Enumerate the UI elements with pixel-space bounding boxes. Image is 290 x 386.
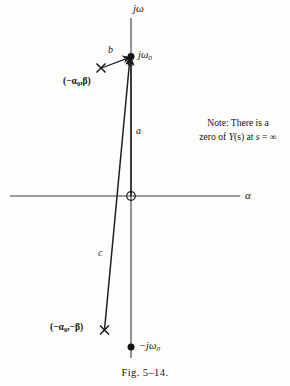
vector-a-label: a — [136, 125, 141, 136]
pole-upper-coord-label: (−α0,β) — [63, 76, 91, 87]
figure-caption: Fig. 5–14. — [0, 367, 290, 378]
zero-lower-label-text: −jω — [139, 340, 156, 351]
pole-upper-coord-head: (−α — [63, 76, 77, 86]
note-line-1: Note: There is a — [188, 116, 288, 130]
zero-upper-marker — [128, 53, 135, 60]
vector-b-label: b — [108, 44, 113, 55]
note-line-2-prefix: zero of — [199, 131, 228, 142]
note-infinity-symbol: ∞ — [270, 131, 277, 142]
note-function-arg: (s) — [234, 131, 244, 142]
zero-upper-label-subscript: 0 — [148, 54, 152, 62]
note-equals: = — [260, 131, 270, 142]
note-block: Note: There is a zero of Y(s) at s = ∞ — [188, 116, 288, 144]
note-line-2: zero of Y(s) at s = ∞ — [188, 130, 288, 144]
zero-upper-label-text: jω — [138, 49, 148, 60]
note-line-2-mid: at — [244, 131, 256, 142]
zero-lower-marker — [128, 344, 135, 351]
pole-lower-coord-label: (−α0,−β) — [50, 322, 83, 333]
pole-upper-coord-subscript: 0 — [77, 80, 80, 87]
zero-upper-label: jω0 — [138, 49, 152, 61]
vector-c-line — [105, 64, 130, 330]
imaginary-axis-label: jω — [133, 2, 144, 14]
pole-upper-cross-icon — [97, 64, 106, 73]
pole-lower-coord-subscript: 0 — [64, 326, 67, 333]
zero-lower-label: −jω0 — [139, 340, 160, 352]
real-axis-label: α — [245, 189, 251, 201]
zero-lower-label-subscript: 0 — [156, 345, 160, 353]
figure-container: jω α jω0 −jω0 (−α0,β) (−α0,−β) a b c Not… — [0, 0, 290, 386]
pole-lower-coord-head: (−α — [50, 322, 64, 332]
vector-c-label: c — [98, 247, 102, 258]
pole-lower-coord-tail: ,−β) — [67, 322, 83, 332]
pole-upper-coord-tail: ,β) — [80, 76, 91, 86]
